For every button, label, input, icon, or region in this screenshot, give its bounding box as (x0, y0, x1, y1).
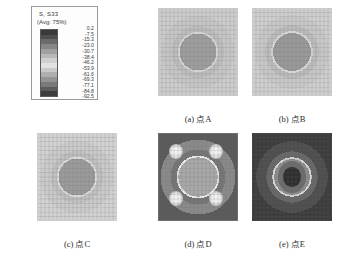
panel-point-d (158, 133, 238, 221)
stress-hotspot (169, 144, 183, 159)
contour-bands (252, 8, 332, 96)
fea-contour-figure: S, S33 (Avg: 75%) 0.2-7.5-15.3-23.0-30.7… (0, 0, 346, 254)
contour-bands (158, 8, 238, 96)
legend-value-list: 0.2-7.5-15.3-23.0-30.7-38.4-46.2-53.9-61… (60, 26, 96, 100)
panel-caption-b: (b) 点B (252, 112, 332, 124)
bullseye-core (283, 167, 301, 186)
panel-point-a (158, 8, 238, 96)
panel-point-c (37, 133, 117, 221)
contour-plot-e (252, 133, 332, 221)
contour-legend: S, S33 (Avg: 75%) 0.2-7.5-15.3-23.0-30.7… (31, 6, 98, 100)
legend-value: -92.5 (60, 94, 96, 99)
stress-hotspot (169, 191, 183, 206)
contour-plot-a (158, 8, 238, 96)
panel-caption-c: (c) 点C (37, 237, 117, 249)
panel-point-e (252, 133, 332, 221)
panel-point-b (252, 8, 332, 96)
contour-bands (37, 133, 117, 221)
legend-subtitle: (Avg: 75%) (37, 19, 67, 26)
legend-swatch (41, 91, 57, 96)
contour-plot-d (158, 133, 238, 221)
stress-hotspot (209, 144, 223, 159)
stress-hotspot (209, 191, 223, 206)
legend-color-scale (40, 29, 58, 97)
panel-caption-a: (a) 点A (158, 112, 238, 124)
contour-plot-c (37, 133, 117, 221)
panel-caption-e: (e) 点E (252, 237, 332, 249)
panel-caption-d: (d) 点D (158, 237, 238, 249)
legend-title: S, S33 (39, 11, 58, 18)
contour-plot-b (252, 8, 332, 96)
